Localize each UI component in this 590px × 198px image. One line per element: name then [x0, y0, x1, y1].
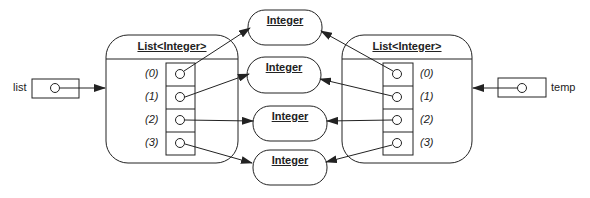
integer-1-label: Integer [248, 14, 322, 26]
left-index-0: (0) [145, 67, 158, 79]
left-cell-0-dot [176, 70, 185, 79]
list-reference-dot [51, 84, 60, 93]
temp-variable-label: temp [551, 81, 575, 93]
right-index-2: (2) [420, 113, 433, 125]
right-index-1: (1) [420, 90, 433, 102]
right-cell-2-dot [393, 116, 402, 125]
list-variable-label: list [13, 81, 26, 93]
integer-4-label: Integer [253, 154, 327, 166]
left-cell-2-dot [176, 116, 185, 125]
left-index-2: (2) [145, 113, 158, 125]
left-list-object [106, 35, 238, 163]
left-cell-1-dot [176, 93, 185, 102]
right-cell-3-dot [393, 139, 402, 148]
integer-2-label: Integer [247, 61, 321, 73]
right-cell-0-dot [393, 70, 402, 79]
right-3-to-integer-4-arrow [326, 145, 392, 162]
right-2-to-integer-3-arrow [327, 120, 392, 121]
right-1-to-integer-2-arrow [320, 79, 392, 96]
left-cell-3-dot [176, 139, 185, 148]
left-index-1: (1) [145, 90, 158, 102]
right-list-object [342, 35, 472, 163]
right-index-0: (0) [420, 67, 433, 79]
left-index-3: (3) [145, 136, 158, 148]
temp-reference-dot [518, 84, 527, 93]
right-cell-1-dot [393, 93, 402, 102]
right-index-3: (3) [420, 136, 433, 148]
diagram-canvas [0, 0, 590, 198]
integer-3-label: Integer [253, 110, 327, 122]
left-list-title: List<Integer> [106, 40, 238, 52]
right-list-title: List<Integer> [342, 40, 472, 52]
